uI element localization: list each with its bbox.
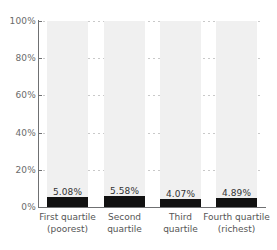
bar-value-label-4: 4.89% (216, 189, 257, 198)
x-axis-line (38, 207, 266, 208)
y-axis-line (38, 20, 39, 208)
y-tick-mark-20 (38, 170, 42, 171)
category-label-line1: Fourth quartile (203, 212, 270, 222)
y-tick-mark-0 (38, 207, 42, 208)
y-tick-mark-60 (38, 95, 42, 96)
y-tick-label-100: 100% (0, 17, 36, 26)
bar-chart: 100% 80% 60% 40% 20% 0% 5.08% 5.58% 4.07… (0, 0, 277, 250)
category-label-fourth-quartile: Fourth quartile (richest) (198, 211, 275, 235)
category-label-line2: quartile (94, 223, 155, 235)
y-tick-label-60: 60% (0, 91, 36, 100)
bar-value-label-2: 5.58% (104, 187, 145, 196)
category-label-line1: Second (108, 212, 141, 222)
bar-value-label-1: 5.08% (47, 188, 88, 197)
bar-third-quartile[interactable] (160, 199, 201, 207)
category-label-line1: Third (169, 212, 192, 222)
y-tick-mark-100 (38, 21, 42, 22)
column-background-3 (160, 21, 201, 207)
y-tick-label-80: 80% (0, 54, 36, 63)
y-tick-label-20: 20% (0, 166, 36, 175)
column-background-2 (104, 21, 145, 207)
bar-value-label-3: 4.07% (160, 190, 201, 199)
y-tick-label-40: 40% (0, 129, 36, 138)
y-tick-mark-80 (38, 58, 42, 59)
bar-first-quartile[interactable] (47, 197, 88, 207)
bar-fourth-quartile[interactable] (216, 198, 257, 207)
category-label-line2: (richest) (198, 223, 275, 235)
category-label-second-quartile: Second quartile (94, 211, 155, 235)
bar-second-quartile[interactable] (104, 196, 145, 207)
column-background-4 (216, 21, 257, 207)
category-label-line1: First quartile (39, 212, 96, 222)
column-background-1 (47, 21, 88, 207)
y-tick-mark-40 (38, 133, 42, 134)
